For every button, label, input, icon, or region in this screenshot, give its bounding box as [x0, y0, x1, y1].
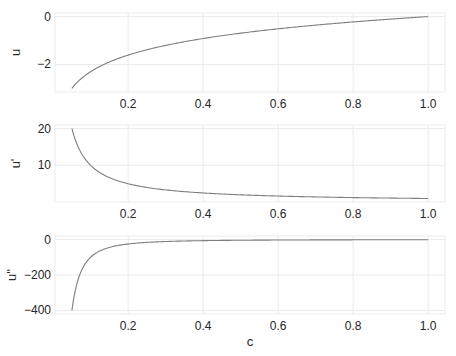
x-tick-label: 0.2: [120, 319, 137, 333]
x-tick-label: 0.8: [345, 207, 362, 221]
x-tick-label: 0.2: [120, 207, 137, 221]
y-axis-label: u: [8, 49, 23, 56]
y-tick-label: −200: [24, 268, 51, 282]
axes-frame: [55, 125, 445, 202]
y-tick-label: 10: [38, 158, 52, 172]
x-tick-label: 0.8: [345, 319, 362, 333]
x-tick-label: 1.0: [420, 319, 437, 333]
y-axis-label: u': [8, 159, 23, 169]
y-tick-label: −400: [24, 303, 51, 317]
axes-frame: [55, 13, 445, 92]
y-axis-label: u'': [4, 269, 19, 281]
y-tick-label: −2: [37, 57, 51, 71]
x-tick-label: 0.4: [195, 207, 212, 221]
subplot-2: 0.20.40.60.81.02010u': [8, 122, 445, 222]
x-tick-label: 1.0: [420, 207, 437, 221]
x-tick-label: 0.4: [195, 97, 212, 111]
x-tick-label: 0.6: [270, 319, 287, 333]
subplot-1: 0.20.40.60.81.00−2u: [8, 10, 445, 111]
x-tick-label: 0.2: [120, 97, 137, 111]
y-tick-label: 0: [44, 233, 51, 247]
y-tick-label: 20: [38, 122, 52, 136]
chart: 0.20.40.60.81.00−2u0.20.40.60.81.02010u'…: [0, 0, 456, 356]
x-tick-label: 0.6: [270, 97, 287, 111]
subplot-3: 0.20.40.60.81.00−200−400u''c: [4, 233, 445, 349]
x-tick-label: 0.4: [195, 319, 212, 333]
x-tick-label: 0.8: [345, 97, 362, 111]
x-tick-label: 1.0: [420, 97, 437, 111]
y-tick-label: 0: [44, 10, 51, 24]
x-tick-label: 0.6: [270, 207, 287, 221]
x-axis-label: c: [247, 334, 254, 349]
